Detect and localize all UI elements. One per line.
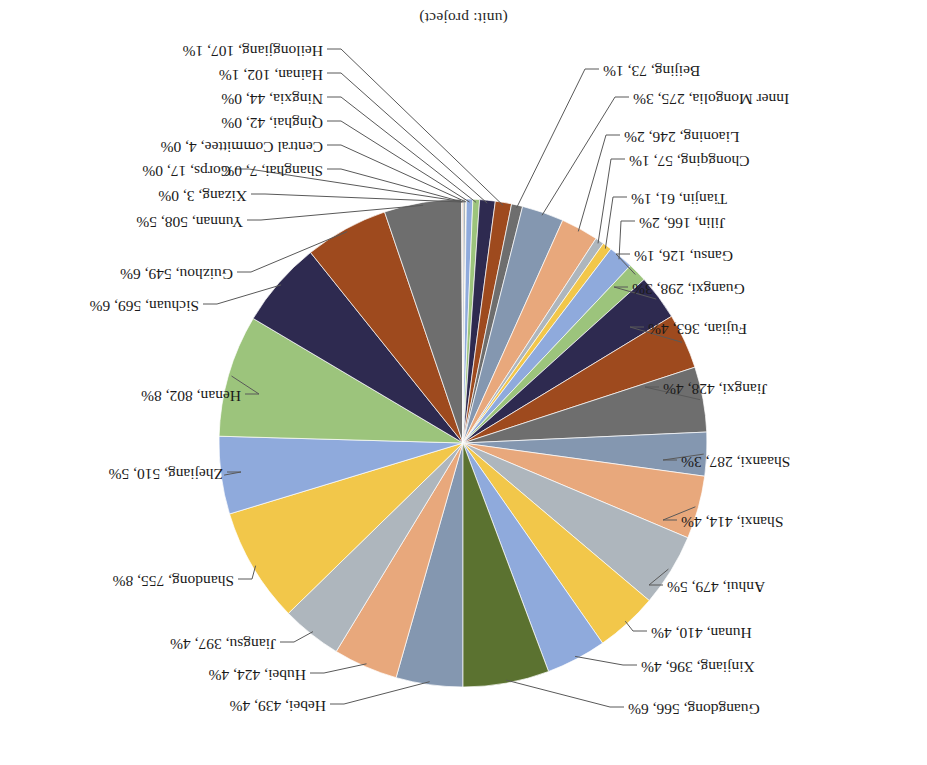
leader-line [330, 682, 430, 704]
pie-label-hebei: Hebei, 439, 4% [230, 698, 326, 714]
pie-label-guangdong: Guangdong, 566, 6% [628, 701, 760, 717]
pie-label-innermongolia: Inner Mongolia, 275, 3% [633, 91, 789, 107]
leader-line [327, 97, 476, 202]
pie-label-shanghai: Shanghai, 7, 0% [221, 163, 323, 179]
pie-label-liaoning: Liaoning, 246, 2% [624, 129, 739, 145]
pie-label-guangxi: Guangxi, 298, 3% [632, 281, 745, 297]
pie-label-central: Central Committee, 4, 0% [161, 139, 323, 155]
leader-line [327, 49, 503, 205]
pie-label-corps: Corps, 17, 0% [142, 163, 231, 179]
pie-label-zhejiang: Zhejiang, 510, 5% [108, 466, 223, 482]
pie-label-beijing: Beijing, 73, 1% [603, 63, 700, 79]
pie-svg [0, 0, 927, 765]
pie-label-fujian: Fujian, 363, 4% [648, 321, 747, 337]
leader-line [506, 680, 624, 707]
leader-line [517, 69, 600, 208]
pie-label-ningxia: Ningxia, 44, 0% [221, 91, 323, 107]
pie-label-gansu: Gansu, 126, 1% [634, 248, 733, 264]
pie-label-guizhou: Guizhou, 549, 6% [120, 266, 233, 282]
leader-line [251, 194, 462, 202]
leader-line [280, 632, 313, 642]
leader-line [327, 121, 470, 202]
pie-label-henan: Henan, 802, 8% [141, 388, 241, 404]
leader-line [578, 135, 620, 231]
leader-line [575, 656, 637, 665]
pie-label-sichuan: Sichuan, 569, 6% [90, 298, 199, 314]
pie-label-shandong: Shandong, 755, 8% [113, 573, 234, 589]
pie-label-jilin: Jilin, 166, 2% [639, 215, 725, 231]
pie-label-chongqing: Chongqing, 57, 1% [629, 153, 750, 169]
rotated-chart-canvas: (unit: project) Hebei, 439, 4%Hubei, 424… [0, 0, 927, 765]
pie-label-anhui: Anhui, 479, 5% [667, 579, 765, 595]
pie-label-xinjiang: Xinjiang, 396, 4% [641, 659, 755, 675]
leader-line [542, 97, 629, 215]
pie-label-hainan: Hainan, 102, 1% [219, 67, 323, 83]
pie-label-shaanxi: Shaanxi, 287, 3% [681, 454, 790, 470]
pie-label-jiangsu: Jiangsu, 397, 4% [170, 636, 276, 652]
pie-chart: Hebei, 439, 4%Hubei, 424, 4%Jiangsu, 397… [0, 0, 927, 765]
pie-label-hunan: Hunan, 410, 4% [651, 625, 752, 641]
pie-label-jiangxi: Jiangxi, 428, 4% [663, 381, 767, 397]
leader-line [605, 197, 627, 249]
leader-line [310, 664, 367, 673]
pie-label-heilongjiang: Heilongjiang, 107, 1% [183, 43, 323, 59]
pie-label-qinghai: Qinghai, 42, 0% [221, 115, 323, 131]
pie-label-tianjin: Tianjin, 61, 1% [631, 191, 727, 207]
pie-label-xizang: Xizang, 3, 0% [158, 188, 247, 204]
pie-label-hubei: Hubei, 424, 4% [209, 667, 306, 683]
leader-line [327, 145, 466, 202]
pie-label-yunnan: Yunnan, 508, 5% [136, 214, 243, 230]
pie-label-shanxi: Shanxi, 414, 4% [681, 514, 783, 530]
leader-line [327, 73, 487, 203]
